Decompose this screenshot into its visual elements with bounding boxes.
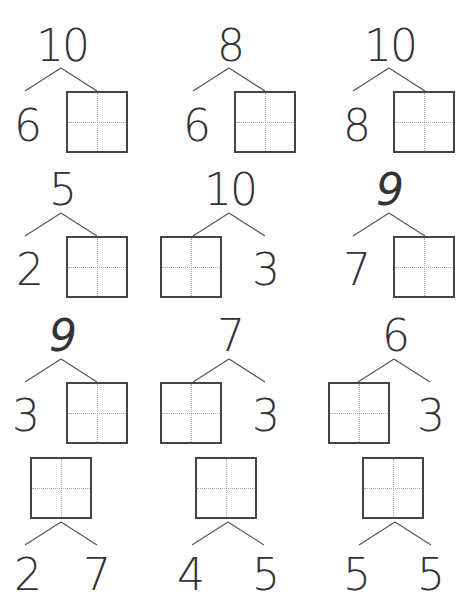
part-left: 3: [0, 394, 55, 438]
answer-box[interactable]: [160, 236, 222, 298]
answer-box[interactable]: [362, 457, 424, 519]
part-right: 5: [235, 553, 295, 592]
part-left: 5: [326, 553, 386, 592]
part-left: 7: [326, 248, 386, 292]
answer-box[interactable]: [66, 236, 128, 298]
whole-number: 10: [32, 24, 92, 68]
answer-box[interactable]: [393, 236, 455, 298]
part-left: 8: [326, 104, 386, 148]
whole-number: 10: [200, 168, 260, 212]
part-left: 4: [160, 553, 220, 592]
part-right: 5: [400, 553, 460, 592]
part-right: 3: [400, 394, 460, 438]
part-left: 2: [0, 248, 59, 292]
whole-number: 7: [200, 314, 260, 358]
answer-box[interactable]: [195, 457, 257, 519]
answer-box[interactable]: [328, 382, 390, 444]
answer-box[interactable]: [30, 457, 92, 519]
part-left: 2: [0, 553, 57, 592]
part-right: 7: [66, 553, 126, 592]
answer-box[interactable]: [160, 382, 222, 444]
answer-box[interactable]: [66, 382, 128, 444]
answer-box[interactable]: [393, 91, 455, 153]
part-right: 3: [235, 248, 295, 292]
whole-number: 9: [359, 168, 419, 212]
part-left: 6: [166, 104, 226, 148]
answer-box[interactable]: [66, 91, 128, 153]
part-right: 3: [235, 394, 295, 438]
whole-number: 8: [200, 24, 260, 68]
whole-number: 6: [365, 314, 425, 358]
whole-number: 5: [32, 168, 92, 212]
whole-number: 10: [360, 24, 420, 68]
answer-box[interactable]: [234, 91, 296, 153]
whole-number: 9: [32, 314, 92, 358]
part-left: 6: [0, 104, 57, 148]
